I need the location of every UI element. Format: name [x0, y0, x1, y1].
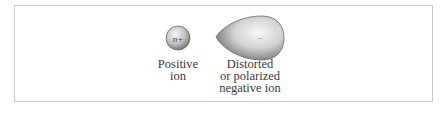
ion-diagram: n+ – [0, 0, 448, 113]
negative-ion-label-line-3: negative ion [208, 82, 292, 94]
negative-ion-teardrop: – [216, 16, 284, 60]
positive-ion-label: Positive ion [148, 58, 208, 82]
positive-ion-label-line-2: ion [148, 70, 208, 82]
negative-ion-label: Distorted or polarized negative ion [208, 58, 292, 94]
positive-ion-sphere: n+ [166, 26, 190, 50]
positive-ion-symbol: n+ [173, 34, 184, 44]
